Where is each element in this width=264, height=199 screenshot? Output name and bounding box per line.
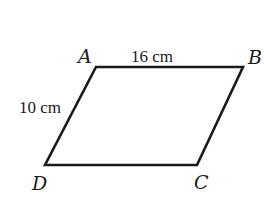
side-ab-length-label: 16 cm: [131, 47, 173, 66]
parallelogram-diagram: A B C D 16 cm 10 cm: [0, 0, 264, 199]
vertex-label-a: A: [76, 45, 92, 67]
side-ad-length-label: 10 cm: [19, 98, 61, 117]
vertex-label-b: B: [247, 46, 262, 68]
vertex-label-c: C: [194, 171, 209, 193]
vertex-label-d: D: [31, 172, 47, 194]
parallelogram-abcd: [45, 67, 243, 165]
